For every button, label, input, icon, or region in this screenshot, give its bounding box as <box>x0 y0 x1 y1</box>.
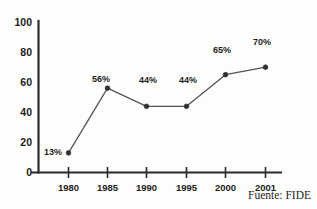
data-point-1990 <box>144 104 149 109</box>
source-note: Fuente: FIDE <box>248 189 311 201</box>
y-tick-label-40: 40 <box>20 106 32 118</box>
y-tick-label-0: 0 <box>26 166 32 178</box>
x-tick-label-2000: 2000 <box>215 182 236 193</box>
x-tick-label-1985: 1985 <box>97 182 119 193</box>
data-point-2000 <box>223 72 228 77</box>
point-label-2001: 70% <box>253 37 271 47</box>
y-tick-label-20: 20 <box>20 136 32 148</box>
data-point-1980 <box>66 151 71 156</box>
data-point-1995 <box>184 104 189 109</box>
y-tick-label-100: 100 <box>14 16 32 28</box>
y-tick-label-80: 80 <box>20 46 32 58</box>
point-label-1985: 56% <box>92 74 110 84</box>
data-point-2001 <box>263 65 268 70</box>
point-label-2000: 65% <box>213 45 231 55</box>
data-point-1985 <box>105 86 110 91</box>
point-label-1990: 44% <box>139 75 157 85</box>
x-tick-label-1980: 1980 <box>58 182 79 193</box>
chart-screenshot: 100 80 60 40 20 0 1980 1985 1990 1995 20… <box>0 0 317 209</box>
x-tick-label-1990: 1990 <box>136 182 157 193</box>
point-label-1980: 13% <box>44 147 62 157</box>
x-tick-label-1995: 1995 <box>176 182 198 193</box>
point-label-1995: 44% <box>179 75 197 85</box>
y-tick-label-60: 60 <box>20 76 32 88</box>
line-chart-plot: 100 80 60 40 20 0 1980 1985 1990 1995 20… <box>0 0 317 209</box>
